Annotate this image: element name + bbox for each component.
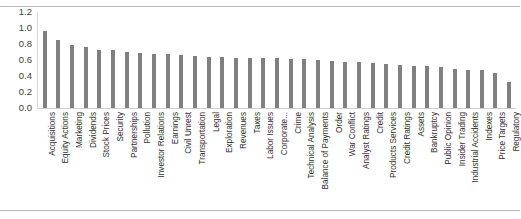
bar[interactable] bbox=[84, 47, 88, 108]
bar-slot bbox=[489, 12, 503, 108]
x-label-slot: Bankruptcy bbox=[420, 110, 434, 210]
bar-slot bbox=[502, 12, 516, 108]
bar[interactable] bbox=[70, 45, 74, 108]
bar[interactable] bbox=[234, 58, 238, 108]
x-label-slot: Transportation bbox=[188, 110, 202, 210]
y-axis-tick: 0.0 bbox=[19, 103, 32, 113]
bar[interactable] bbox=[302, 59, 306, 108]
bar[interactable] bbox=[56, 40, 60, 108]
bar-slot bbox=[407, 12, 421, 108]
bar-slot bbox=[52, 12, 66, 108]
bar-slot bbox=[175, 12, 189, 108]
top-border-line bbox=[0, 6, 520, 7]
x-label-slot: Taxes bbox=[243, 110, 257, 210]
bar[interactable] bbox=[43, 31, 47, 108]
bar-slot bbox=[379, 12, 393, 108]
bar-slot bbox=[338, 12, 352, 108]
x-label-slot: Corporate... bbox=[270, 110, 284, 210]
x-label-slot: Civil Unrest bbox=[175, 110, 189, 210]
y-axis-tick: 0.2 bbox=[19, 87, 32, 97]
bar[interactable] bbox=[275, 58, 279, 108]
bar-slot bbox=[161, 12, 175, 108]
bar-slot bbox=[134, 12, 148, 108]
bar[interactable] bbox=[166, 54, 170, 108]
bar[interactable] bbox=[439, 67, 443, 108]
x-label-slot: Partnerships bbox=[120, 110, 134, 210]
x-label-slot: Public Opinion bbox=[434, 110, 448, 210]
y-axis-tick: 1.0 bbox=[19, 23, 32, 33]
bar-slot bbox=[284, 12, 298, 108]
bar[interactable] bbox=[493, 73, 497, 108]
bar[interactable] bbox=[466, 70, 470, 108]
bar[interactable] bbox=[371, 63, 375, 108]
bar[interactable] bbox=[97, 50, 101, 108]
y-axis-tick: 0.4 bbox=[19, 71, 32, 81]
x-label-slot: Revenues bbox=[229, 110, 243, 210]
bar-slot bbox=[270, 12, 284, 108]
bar[interactable] bbox=[248, 58, 252, 108]
x-label-slot: Crime bbox=[284, 110, 298, 210]
bar-slot bbox=[461, 12, 475, 108]
x-label-slot: Equity Actions bbox=[52, 110, 66, 210]
bar[interactable] bbox=[343, 62, 347, 108]
bar-slot bbox=[65, 12, 79, 108]
bar-slot bbox=[475, 12, 489, 108]
plot-area bbox=[38, 12, 516, 108]
bar-slot bbox=[434, 12, 448, 108]
bar-slot bbox=[325, 12, 339, 108]
bar-slot bbox=[216, 12, 230, 108]
bar[interactable] bbox=[152, 54, 156, 108]
bar-slot bbox=[147, 12, 161, 108]
bar[interactable] bbox=[398, 65, 402, 108]
bar[interactable] bbox=[289, 59, 293, 108]
x-label-slot: Marketing bbox=[65, 110, 79, 210]
bar[interactable] bbox=[384, 64, 388, 108]
bar[interactable] bbox=[480, 70, 484, 108]
bar[interactable] bbox=[316, 60, 320, 108]
bar-slot bbox=[120, 12, 134, 108]
bar-slot bbox=[257, 12, 271, 108]
bar[interactable] bbox=[220, 57, 224, 108]
bar-slot bbox=[393, 12, 407, 108]
bar-slot bbox=[188, 12, 202, 108]
x-label-slot: Legal bbox=[202, 110, 216, 210]
bar-slot bbox=[93, 12, 107, 108]
y-axis-tick: 1.2 bbox=[19, 7, 32, 17]
x-axis-line bbox=[37, 108, 516, 109]
bar[interactable] bbox=[412, 66, 416, 108]
bar[interactable] bbox=[125, 52, 129, 108]
bar-slot bbox=[420, 12, 434, 108]
y-axis-tick: 0.8 bbox=[19, 39, 32, 49]
x-axis-category-labels: AcquisitionsEquity ActionsMarketingDivid… bbox=[38, 110, 516, 210]
x-label-slot: Regulatory bbox=[502, 110, 516, 210]
bar[interactable] bbox=[261, 58, 265, 108]
bar-slot bbox=[311, 12, 325, 108]
y-axis-tick: 0.6 bbox=[19, 55, 32, 65]
bar[interactable] bbox=[111, 50, 115, 108]
bar[interactable] bbox=[138, 53, 142, 108]
bar-slot bbox=[448, 12, 462, 108]
bar-slot bbox=[202, 12, 216, 108]
x-label-slot: Acquisitions bbox=[38, 110, 52, 210]
bar[interactable] bbox=[330, 61, 334, 108]
x-label-slot: Analyst Ratings bbox=[352, 110, 366, 210]
bar-slot bbox=[229, 12, 243, 108]
x-label-slot: Credit bbox=[366, 110, 380, 210]
bar-slot bbox=[243, 12, 257, 108]
bar[interactable] bbox=[507, 82, 511, 108]
bar[interactable] bbox=[357, 62, 361, 108]
bar-slot bbox=[106, 12, 120, 108]
y-axis-tick-labels: 0.00.20.40.60.81.01.2 bbox=[0, 0, 37, 120]
bar[interactable] bbox=[453, 69, 457, 108]
bar[interactable] bbox=[193, 56, 197, 108]
x-label-slot: Balance of Payments bbox=[311, 110, 325, 210]
bar[interactable] bbox=[207, 57, 211, 108]
bar-slot bbox=[79, 12, 93, 108]
x-label-slot: Order bbox=[325, 110, 339, 210]
x-label-slot: Stock Prices bbox=[93, 110, 107, 210]
x-label-slot: Technical Analysis bbox=[297, 110, 311, 210]
bar[interactable] bbox=[179, 55, 183, 108]
bar-slot bbox=[366, 12, 380, 108]
bar[interactable] bbox=[425, 66, 429, 108]
